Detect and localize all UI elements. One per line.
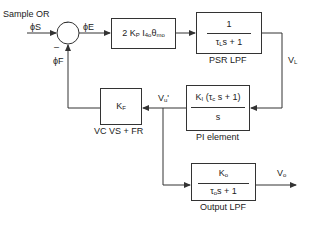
output-lpf-block: Ko τos + 1 [191, 163, 256, 201]
feedback-caption: VC VS + FR [94, 126, 143, 136]
psr-lpf-numerator: 1 [197, 19, 261, 29]
gain-block: 2 KP I4oθmo [111, 18, 176, 49]
feedback-gain-block: KF [100, 88, 142, 125]
pi-denominator: s [187, 112, 249, 122]
psr-lpf-denominator: τLs + 1 [197, 37, 261, 47]
feedback-gain-expression: KF [101, 101, 141, 111]
psr-lpf-caption: PSR LPF [209, 55, 247, 65]
phi-s-label: ϕS [30, 22, 41, 32]
psr-lpf-fraction-bar [207, 33, 251, 34]
pi-element-block: KI (τc s + 1) s [186, 85, 250, 131]
v-u-prime-label: Vu' [158, 93, 169, 103]
sample-or-label: Sample OR [3, 9, 50, 19]
psr-lpf-block: 1 τLs + 1 [196, 12, 262, 54]
pi-fraction-bar [191, 107, 245, 108]
plus-sign-top: – [64, 17, 68, 26]
pi-element-caption: PI element [196, 132, 239, 142]
output-lpf-numerator: Ko [192, 168, 255, 178]
v-l-label: VL [288, 55, 297, 65]
minus-sign: – [54, 42, 59, 52]
gain-expression: 2 KP I4oθmo [112, 28, 175, 38]
output-lpf-caption: Output LPF [200, 202, 246, 212]
phi-e-label: ϕE [83, 22, 94, 32]
v-o-label: Vo [277, 168, 286, 178]
pi-numerator: KI (τc s + 1) [187, 92, 249, 102]
output-lpf-denominator: τos + 1 [192, 186, 255, 196]
output-lpf-fraction-bar [198, 183, 249, 184]
phi-f-label: ϕF [53, 56, 64, 66]
